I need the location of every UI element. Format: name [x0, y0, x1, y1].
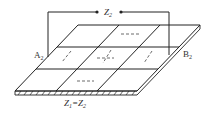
- terminal-label-a2: A2: [34, 50, 44, 61]
- impedance-label-z2: Z2: [104, 7, 112, 18]
- terminal-dot-left: [95, 10, 98, 13]
- terminal-dot-right: [119, 10, 122, 13]
- impedance-grid-diagram: Z2 A2 B2 Z1=Z2: [0, 0, 214, 118]
- terminal-label-b2: B2: [183, 49, 192, 60]
- equation-label: Z1=Z2: [64, 98, 86, 109]
- dashed-markings: [62, 34, 152, 81]
